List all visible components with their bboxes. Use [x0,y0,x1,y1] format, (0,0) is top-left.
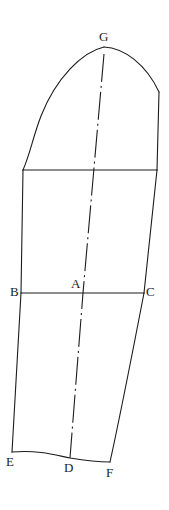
vertex-label-a: A [71,277,80,290]
canvas-background [0,0,169,510]
vertex-label-g: G [99,30,108,43]
vertex-label-e: E [6,455,14,468]
vertex-label-d: D [64,461,73,474]
vertex-label-c: C [146,285,155,298]
pattern-drawing-canvas [0,0,169,510]
sleeve-pattern-diagram: G A B C D E F [0,0,169,510]
vertex-label-b: B [10,285,19,298]
vertex-label-f: F [106,466,113,479]
